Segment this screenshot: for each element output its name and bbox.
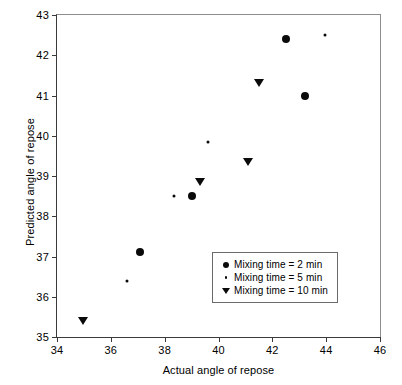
data-point — [282, 35, 290, 43]
data-point — [206, 140, 209, 143]
x-axis-tick — [219, 337, 220, 342]
y-axis-tick-label: 40 — [36, 130, 49, 141]
x-axis-tick — [165, 337, 166, 342]
filled-triangle-down-icon — [218, 284, 234, 297]
y-axis-tick — [52, 216, 57, 217]
data-point — [323, 34, 326, 37]
data-point — [254, 79, 264, 87]
x-axis-tick-label: 44 — [320, 345, 333, 356]
y-axis-tick — [52, 257, 57, 258]
scatter-chart: 35363738394041424334363840424446 Actual … — [0, 0, 402, 385]
x-axis-tick-label: 46 — [374, 345, 387, 356]
data-point — [188, 192, 196, 200]
x-axis-tick — [326, 337, 327, 342]
legend-item-label: Mixing time = 10 min — [234, 286, 328, 296]
legend-item-label: Mixing time = 5 min — [234, 273, 322, 283]
y-axis-tick-label: 39 — [36, 171, 49, 182]
x-axis-tick — [111, 337, 112, 342]
y-axis-tick — [52, 96, 57, 97]
x-axis-label: Actual angle of repose — [56, 364, 381, 376]
x-axis-tick — [380, 337, 381, 342]
data-point — [78, 317, 88, 325]
small-dot-icon — [218, 271, 234, 284]
legend-item[interactable]: Mixing time = 2 min — [218, 258, 331, 271]
legend-item[interactable]: Mixing time = 5 min — [218, 271, 331, 284]
y-axis-tick — [52, 297, 57, 298]
y-axis-tick — [52, 55, 57, 56]
y-axis-tick-label: 35 — [36, 332, 49, 343]
y-axis-tick-label: 37 — [36, 251, 49, 262]
data-point — [243, 158, 253, 166]
legend-item-label: Mixing time = 2 min — [234, 260, 322, 270]
x-axis-tick-label: 38 — [158, 345, 171, 356]
data-point — [125, 279, 128, 282]
y-axis-tick-label: 43 — [36, 10, 49, 21]
x-axis-tick-label: 40 — [212, 345, 225, 356]
x-axis-tick — [272, 337, 273, 342]
x-axis-tick-label: 42 — [266, 345, 279, 356]
y-axis-tick-label: 41 — [36, 90, 49, 101]
x-axis-tick — [57, 337, 58, 342]
data-point — [173, 195, 176, 198]
y-axis-tick-label: 38 — [36, 211, 49, 222]
y-axis-tick — [52, 136, 57, 137]
y-axis-tick-label: 42 — [36, 50, 49, 61]
y-axis-label: Predicted angle of repose — [24, 82, 36, 282]
y-axis-tick — [52, 15, 57, 16]
y-axis-tick — [52, 176, 57, 177]
filled-circle-icon — [218, 258, 234, 271]
data-point — [301, 92, 309, 100]
x-axis-tick-label: 36 — [105, 345, 118, 356]
data-point — [195, 178, 205, 186]
data-point — [136, 248, 144, 256]
legend-item[interactable]: Mixing time = 10 min — [218, 284, 331, 297]
y-axis-tick-label: 36 — [36, 291, 49, 302]
x-axis-tick-label: 34 — [51, 345, 64, 356]
chart-legend: Mixing time = 2 min Mixing time = 5 min … — [212, 252, 338, 303]
